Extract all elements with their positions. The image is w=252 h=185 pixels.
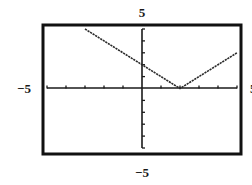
ymax-label: 5 bbox=[139, 5, 146, 20]
xmin-label: −5 bbox=[17, 81, 31, 96]
ymin-label: −5 bbox=[135, 165, 149, 180]
xmax-label: 5 bbox=[250, 81, 252, 96]
graph-window: 5 −5 −5 5 bbox=[0, 0, 252, 185]
